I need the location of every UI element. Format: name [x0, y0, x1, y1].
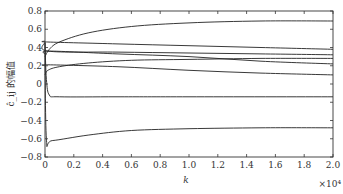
- y-tick-label: −0.2: [20, 97, 42, 107]
- x-tick-label: 0.6: [124, 160, 139, 170]
- x-tick-label: 0.4: [95, 160, 110, 170]
- curves: [42, 21, 333, 147]
- x-tick-label: 1.2: [211, 160, 225, 170]
- line-chart: 00.20.40.60.81.01.21.41.61.82.0 0.80.60.…: [0, 0, 343, 194]
- series-curve-6: [42, 65, 333, 75]
- y-tick-label: −0.6: [20, 134, 42, 144]
- series-curve-5: [45, 58, 333, 75]
- series-curve-2: [42, 41, 333, 49]
- y-tick-label: −0.8: [20, 152, 42, 162]
- x-tick-label: 1.4: [239, 160, 254, 170]
- y-tick-label: 0.8: [28, 6, 43, 16]
- x-axis-label: k: [183, 175, 188, 185]
- y-tick-label: 0.2: [28, 61, 42, 71]
- x-tick-label: 0.8: [153, 160, 168, 170]
- x-axis-multiplier: ×10⁴: [318, 179, 341, 189]
- y-tick-label: 0.6: [28, 24, 43, 34]
- x-tick-label: 1.6: [268, 160, 283, 170]
- x-tick-label: 1.8: [297, 160, 312, 170]
- y-tick-label: −0.4: [20, 116, 42, 126]
- y-axis-label: ĉ_ij 的幅值: [5, 61, 17, 106]
- x-tick-label: 2.0: [326, 160, 341, 170]
- x-tick-label: 0.2: [67, 160, 81, 170]
- x-axis: 00.20.40.60.81.01.21.41.61.82.0: [42, 11, 340, 170]
- y-tick-label: 0.4: [28, 43, 43, 53]
- y-tick-label: 0: [36, 79, 42, 89]
- x-tick-label: 1.0: [182, 160, 197, 170]
- series-curve-1: [45, 21, 333, 57]
- x-tick-label: 0: [42, 160, 48, 170]
